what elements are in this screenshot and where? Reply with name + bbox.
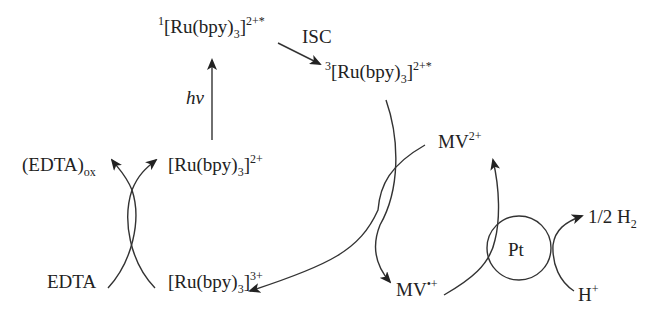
oxidized-ru-label: [Ru(bpy)3]3+ [168,272,263,291]
triplet-excited-label: 3[Ru(bpy)3]2+* [325,62,432,81]
isc-label: ISC [302,27,332,46]
singlet-excited-label: 1[Ru(bpy)3]2+* [158,17,265,36]
hydrogen-evolution-arrow [553,216,582,291]
edta-oxidation-arrow [108,160,136,288]
diagram-canvas: 1[Ru(bpy)3]2+* ISC 3[Ru(bpy)3]2+* hν [Ru… [0,0,670,315]
photon-label: hν [186,88,204,107]
mv2-label: MV2+ [438,132,481,151]
h2-label: 1/2 H2 [588,207,637,226]
edta-label: EDTA [47,272,96,291]
mv-radical-label: MV•+ [396,280,438,299]
arrows-layer [0,0,670,315]
electron-transfer-arrow [250,145,425,291]
ru3-to-ru2-arrow [128,160,156,288]
triplet-quenching-arrow [376,100,396,282]
pt-label: Pt [508,240,524,259]
mv-reoxidation-arrow [444,160,499,295]
ground-state-label: [Ru(bpy)3]2+ [168,155,263,174]
edta-ox-label: (EDTA)ox [22,155,96,174]
h-plus-label: H+ [578,285,599,304]
